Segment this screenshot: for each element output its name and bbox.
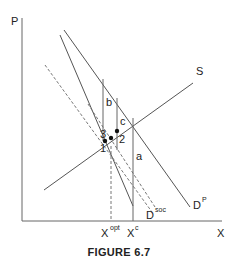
xc-label: X: [127, 228, 134, 239]
area-a-label: a: [136, 151, 142, 162]
figure-caption: FIGURE 6.7: [0, 246, 238, 258]
point-2-label: 2: [119, 134, 125, 145]
private-demand-label: D: [193, 200, 201, 211]
area-b-label: b: [106, 97, 112, 108]
private-demand-curve: [64, 30, 190, 207]
point-3-marker: [109, 136, 113, 140]
xopt-label: X: [101, 228, 108, 239]
y-axis-label: P: [11, 16, 18, 27]
private-demand-sup: P: [202, 196, 207, 203]
point-1-label: 1: [100, 143, 106, 154]
x-axis-label: X: [217, 228, 224, 239]
xc-sup: c: [135, 224, 139, 231]
social-demand-sup: soc: [155, 206, 166, 213]
social-demand-label: D: [146, 210, 154, 221]
figure-6-7: P X S D P D soc b c a 3 1 2 X opt X c FI…: [0, 0, 238, 266]
point-3-label: 3: [100, 129, 106, 140]
xopt-sup: opt: [110, 224, 120, 231]
supply-label: S: [196, 66, 203, 77]
social-demand-curve: [45, 65, 152, 212]
area-c-label: c: [120, 116, 126, 127]
